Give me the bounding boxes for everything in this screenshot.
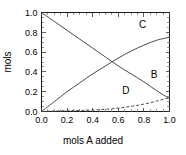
x-tick-labels: 0.00.20.40.60.81.0 [35,115,176,125]
y-tick-label: 1.0 [25,8,38,18]
y-tick-label: 0.0 [25,107,38,117]
y-tick-label: 0.8 [25,28,38,38]
y-tick-label: 0.2 [25,87,38,97]
series-label-d: D [122,85,129,96]
x-tick-label: 0.6 [112,115,125,125]
x-tick-label: 0.4 [86,115,99,125]
series-curve-b [42,13,170,99]
series-label-c: C [139,19,146,30]
chart-plot-svg: CBD 0.00.20.40.60.81.0 0.00.20.40.60.81.… [0,0,186,155]
y-tick-labels: 0.00.20.40.60.81.0 [25,8,38,117]
x-tick-label: 0.8 [138,115,151,125]
x-axis-title: mols A added [63,135,123,146]
data-curves [42,13,170,112]
series-labels: CBD [122,19,157,96]
series-label-b: B [151,69,158,80]
y-axis-title: mols [2,51,13,72]
x-tick-label: 1.0 [163,115,176,125]
chart-figure: CBD 0.00.20.40.60.81.0 0.00.20.40.60.81.… [0,0,186,155]
y-tick-label: 0.6 [25,47,38,57]
y-tick-label: 0.4 [25,67,38,77]
x-tick-label: 0.2 [61,115,74,125]
